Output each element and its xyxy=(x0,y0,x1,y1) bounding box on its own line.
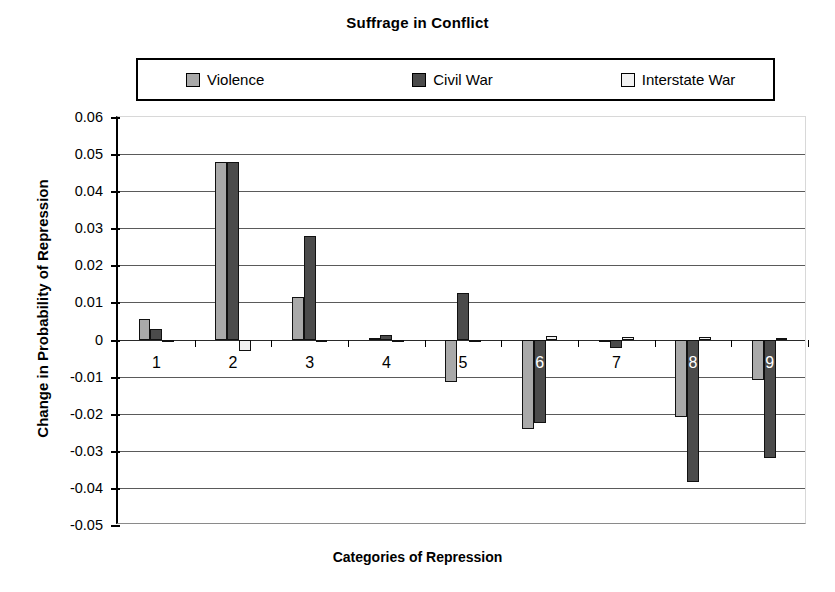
chart-title: Suffrage in Conflict xyxy=(0,14,835,31)
bar xyxy=(534,340,546,423)
x-tick-mark xyxy=(425,340,426,347)
legend-label-violence: Violence xyxy=(207,71,264,88)
y-tick-label: 0.02 xyxy=(41,257,103,273)
x-category-label: 5 xyxy=(459,354,468,372)
y-tick-mark xyxy=(111,228,120,230)
bar xyxy=(292,297,304,340)
legend-label-civil-war: Civil War xyxy=(433,71,492,88)
y-tick-label: -0.05 xyxy=(41,517,103,533)
bar xyxy=(369,338,381,340)
y-tick-label: 0.05 xyxy=(41,146,103,162)
bar xyxy=(304,236,316,340)
y-tick-label: 0.03 xyxy=(41,220,103,236)
x-tick-mark xyxy=(501,340,502,347)
legend-swatch-interstate-war xyxy=(621,73,635,87)
y-tick-mark xyxy=(111,340,120,342)
bar xyxy=(215,162,227,340)
x-tick-mark xyxy=(731,340,732,347)
plot-area: 0.060.050.040.030.020.010-0.01-0.02-0.03… xyxy=(116,116,806,524)
x-category-label: 7 xyxy=(612,354,621,372)
gridline xyxy=(118,414,805,415)
x-tick-mark xyxy=(348,340,349,347)
y-tick-mark xyxy=(111,302,120,304)
chart-legend: Violence Civil War Interstate War xyxy=(136,58,775,101)
legend-label-interstate-war: Interstate War xyxy=(642,71,736,88)
y-tick-label: -0.01 xyxy=(41,369,103,385)
bar xyxy=(457,293,469,339)
x-tick-mark xyxy=(195,340,196,347)
y-tick-label: 0.01 xyxy=(41,294,103,310)
x-category-label: 4 xyxy=(382,354,391,372)
y-tick-label: -0.03 xyxy=(41,443,103,459)
x-category-label: 1 xyxy=(152,354,161,372)
bar xyxy=(599,340,611,343)
y-tick-label: 0.04 xyxy=(41,183,103,199)
y-tick-mark xyxy=(111,265,120,267)
bar xyxy=(776,338,788,340)
x-category-label: 2 xyxy=(229,354,238,372)
x-tick-mark xyxy=(271,340,272,347)
y-tick-label: -0.02 xyxy=(41,406,103,422)
gridline xyxy=(118,154,805,155)
bar xyxy=(622,337,634,340)
bar xyxy=(675,340,687,418)
gridline xyxy=(118,488,805,489)
chart-canvas: Suffrage in Conflict Violence Civil War … xyxy=(0,0,835,592)
x-tick-mark xyxy=(655,340,656,347)
x-tick-mark xyxy=(578,340,579,347)
bar xyxy=(610,340,622,348)
x-category-label: 3 xyxy=(305,354,314,372)
bar xyxy=(445,340,457,383)
bar xyxy=(139,319,151,339)
y-tick-mark xyxy=(111,525,120,527)
bar xyxy=(316,340,328,342)
legend-item-violence: Violence xyxy=(186,71,264,88)
y-tick-mark xyxy=(111,451,120,453)
y-tick-mark xyxy=(111,414,120,416)
zero-line xyxy=(118,340,805,341)
bar xyxy=(699,337,711,340)
x-category-label: 6 xyxy=(535,354,544,372)
bar xyxy=(239,340,251,351)
y-tick-mark xyxy=(111,488,120,490)
x-tick-mark xyxy=(808,340,809,347)
y-tick-mark xyxy=(111,154,120,156)
y-tick-mark xyxy=(111,117,120,119)
bar xyxy=(162,340,174,342)
x-category-label: 9 xyxy=(765,354,774,372)
y-tick-label: 0.06 xyxy=(41,109,103,125)
x-axis-title: Categories of Repression xyxy=(0,549,835,565)
legend-swatch-violence xyxy=(186,73,200,87)
y-tick-label: -0.04 xyxy=(41,480,103,496)
y-tick-mark xyxy=(111,377,120,379)
y-tick-label: 0 xyxy=(41,332,103,348)
bar xyxy=(227,162,239,340)
legend-swatch-civil-war xyxy=(412,73,426,87)
legend-item-interstate-war: Interstate War xyxy=(621,71,736,88)
bar xyxy=(546,336,558,340)
y-tick-mark xyxy=(111,191,120,193)
bar xyxy=(392,340,404,342)
bar xyxy=(469,340,481,342)
legend-item-civil-war: Civil War xyxy=(412,71,492,88)
gridline xyxy=(118,451,805,452)
x-category-label: 8 xyxy=(689,354,698,372)
gridline xyxy=(118,377,805,378)
bar xyxy=(752,340,764,381)
bar xyxy=(522,340,534,429)
bar xyxy=(380,335,392,340)
bar xyxy=(150,329,162,339)
